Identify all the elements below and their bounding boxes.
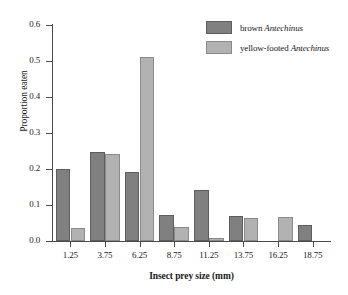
x-axis-tick: [105, 242, 106, 247]
legend-label-prefix: brown: [240, 23, 264, 33]
y-axis-tick: [46, 97, 52, 98]
bar-18.75-series-0: [298, 225, 313, 241]
bar-11.25-series-0: [194, 190, 209, 241]
x-axis-tick: [209, 242, 210, 247]
bar-3.75-series-1: [105, 154, 120, 241]
bar-8.75-series-0: [159, 215, 174, 241]
x-axis-tick: [140, 242, 141, 247]
x-axis-tick: [278, 242, 279, 247]
bar-6.25-series-0: [125, 172, 140, 241]
bar-1.25-series-1: [71, 228, 86, 241]
legend-label-prefix: yellow-footed: [240, 43, 291, 53]
y-axis-tick: [46, 61, 52, 62]
bar-8.75-series-1: [174, 227, 189, 241]
x-axis-tick: [70, 242, 71, 247]
legend-label-0: brown Antechinus: [240, 23, 303, 33]
legend-item-0: brown Antechinus: [206, 21, 329, 34]
x-axis-tick: [174, 242, 175, 247]
y-axis-tick: [46, 133, 52, 134]
legend-swatch-1: [206, 41, 232, 54]
bar-11.25-series-1: [209, 238, 224, 241]
bar-6.25-series-1: [140, 57, 155, 241]
y-axis-tick-label: 0.0: [0, 236, 40, 245]
x-axis-tick: [243, 242, 244, 247]
x-axis-tick-label: 18.75: [288, 250, 338, 260]
bar-16.25-series-1: [278, 217, 293, 241]
chart-legend: brown Antechinusyellow-footed Antechinus: [206, 21, 329, 54]
x-axis-title: Insect prey size (mm): [53, 271, 330, 282]
y-axis-tick: [46, 241, 52, 242]
legend-item-1: yellow-footed Antechinus: [206, 41, 329, 54]
legend-label-1: yellow-footed Antechinus: [240, 43, 329, 53]
bar-13.75-series-0: [229, 216, 244, 241]
x-axis-tick: [313, 242, 314, 247]
y-axis-tick: [46, 169, 52, 170]
y-axis-tick-label: 0.1: [0, 200, 40, 209]
y-axis-tick: [46, 25, 52, 26]
legend-swatch-0: [206, 21, 232, 34]
bar-1.25-series-0: [56, 169, 71, 241]
plot-area: [53, 25, 330, 241]
bar-13.75-series-1: [244, 218, 259, 241]
legend-label-species: Antechinus: [264, 23, 303, 33]
legend-label-species: Antechinus: [291, 43, 330, 53]
y-axis-tick: [46, 205, 52, 206]
y-axis-title: Proportion eaten: [19, 31, 29, 171]
bar-3.75-series-0: [90, 152, 105, 241]
bar-chart-figure: 0.00.10.20.30.40.50.6 Proportion eaten I…: [0, 0, 348, 295]
x-axis-line: [52, 241, 331, 242]
y-axis-tick-label: 0.6: [0, 20, 40, 29]
